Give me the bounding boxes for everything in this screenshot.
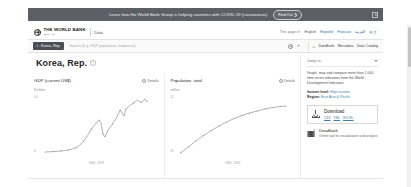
- site-header: THE WORLD BANK IBRD · IDA Data This page…: [28, 25, 383, 40]
- gdp-series-line: [45, 99, 147, 152]
- chart-header-population: Population, total i Details: [171, 78, 296, 83]
- meta-region-key: Region:: [307, 95, 320, 99]
- chart-unit-gdp: $ trillion: [34, 88, 159, 92]
- chart-unit-population: million: [171, 88, 296, 92]
- covid-banner: Learn how the World Bank Group is helpin…: [28, 8, 383, 21]
- x-label-gdp: 1960 - 2019: [89, 161, 104, 165]
- search-input[interactable]: Search (e.g. GDP population, Indonesia): [69, 44, 135, 48]
- databank-content: DataBank Online tool for visualization a…: [319, 128, 378, 139]
- site-section-label[interactable]: Data: [94, 30, 103, 35]
- y-tick-top-population: 52: [171, 95, 174, 99]
- download-tray: [312, 116, 319, 119]
- content-bottom-divider: [28, 178, 383, 179]
- download-box[interactable]: Download CSV XML EXCEL: [307, 105, 378, 125]
- gdp-series-points: [45, 101, 147, 153]
- databank-subtitle: Online tool for visualization and analys…: [319, 134, 378, 139]
- gdp-line-svg: [34, 93, 159, 165]
- databank-title: DataBank: [319, 128, 378, 133]
- chip-close-icon[interactable]: ✕: [36, 44, 39, 48]
- indicator-charts: GDP (current US$) i Details $ trillion 1…: [28, 74, 300, 178]
- details-label: Details: [284, 79, 295, 83]
- left-gutter: [0, 0, 28, 187]
- population-series-line: [180, 106, 285, 153]
- jump-to-dropdown[interactable]: Jump to: [307, 59, 378, 67]
- download-xml[interactable]: XML: [334, 116, 341, 120]
- chart-card-population: Population, total i Details million 52 2…: [164, 74, 301, 178]
- population-line-svg: [171, 93, 296, 165]
- nav-microdata[interactable]: Microdata: [338, 44, 354, 48]
- language-arabic[interactable]: العربية: [355, 30, 365, 34]
- close-icon[interactable]: ✕: [372, 12, 378, 18]
- world-bank-data-page: Learn how the World Bank Group is helpin…: [0, 0, 411, 187]
- home-icon[interactable]: ⌂: [313, 44, 315, 49]
- plus-icon[interactable]: +: [297, 43, 300, 49]
- country-chip-korea[interactable]: ✕ Korea, Rep.: [33, 42, 64, 50]
- star-icon: ✦: [313, 128, 316, 132]
- nav-databank[interactable]: DataBank: [318, 44, 334, 48]
- top-nav: ⌂ DataBank Microdata Data Catalog: [313, 44, 378, 49]
- meta-region-value[interactable]: East Asia & Pacific: [321, 95, 350, 99]
- jump-to-label: Jump to: [307, 59, 321, 63]
- download-icon: [312, 110, 320, 119]
- chevron-down-icon: [374, 60, 378, 62]
- download-title: Download: [324, 109, 354, 114]
- language-label: This page in:: [280, 30, 301, 34]
- nav-data-catalog[interactable]: Data Catalog: [357, 44, 378, 48]
- logo-title: THE WORLD BANK: [44, 28, 86, 32]
- scrollbar-thumb[interactable]: [408, 27, 411, 67]
- language-english[interactable]: English: [304, 30, 316, 34]
- logo-text: THE WORLD BANK IBRD · IDA: [44, 28, 86, 35]
- details-icon: i: [279, 79, 283, 83]
- sidebar-description: Graph, map and compare more than 1,000 t…: [307, 71, 378, 86]
- y-tick-top-gdp: 1.6: [34, 95, 38, 99]
- download-formats: CSV XML EXCEL: [324, 116, 354, 120]
- databank-box[interactable]: ✦ DataBank Online tool for visualization…: [307, 128, 378, 139]
- world-bank-logo[interactable]: THE WORLD BANK IBRD · IDA: [34, 28, 86, 35]
- globe-icon: [34, 29, 41, 36]
- country-sidebar: Jump to Graph, map and compare more than…: [300, 55, 383, 178]
- logo-divider: [90, 28, 91, 36]
- chart-header-gdp: GDP (current US$) i Details: [34, 78, 159, 83]
- info-icon[interactable]: i: [90, 60, 96, 66]
- language-selector: This page in: English Español Français ا…: [280, 30, 377, 35]
- meta-income-key: Income level:: [307, 90, 329, 94]
- y-tick-bottom-population: 25: [171, 149, 174, 153]
- meta-income-value[interactable]: High income: [330, 90, 349, 94]
- plot-population: 52 25 1960 - 2019: [171, 93, 296, 165]
- download-content: Download CSV XML EXCEL: [324, 109, 354, 120]
- search-tools: +: [288, 43, 304, 49]
- chart-card-gdp: GDP (current US$) i Details $ trillion 1…: [28, 74, 164, 178]
- country-metadata: Income level: High income Region: East A…: [307, 90, 378, 101]
- chart-title-gdp: GDP (current US$): [34, 78, 71, 83]
- plot-gdp: 1.6 0 1960 - 2019: [34, 93, 159, 165]
- language-espanol[interactable]: Español: [320, 30, 333, 34]
- y-tick-bottom-gdp: 0: [34, 149, 36, 153]
- language-francais[interactable]: Français: [337, 30, 351, 34]
- database-icon: ✦: [307, 129, 315, 137]
- logo-subtitle: IBRD · IDA: [44, 33, 86, 35]
- details-label: Details: [148, 79, 159, 83]
- meta-region: Region: East Asia & Pacific: [307, 95, 378, 100]
- language-chinese[interactable]: 中文: [369, 30, 377, 35]
- download-csv[interactable]: CSV: [324, 116, 331, 120]
- download-excel[interactable]: EXCEL: [343, 116, 353, 120]
- details-link-population[interactable]: i Details: [279, 79, 296, 83]
- x-label-population: 1960 - 2019: [225, 161, 240, 165]
- covid-find-out-button[interactable]: Find Out ❯: [273, 10, 302, 20]
- chart-title-population: Population, total: [171, 78, 203, 83]
- chip-label: Korea, Rep.: [41, 44, 61, 48]
- page-title: Korea, Rep.: [36, 58, 87, 68]
- gear-icon[interactable]: [288, 44, 293, 49]
- search-row: ✕ Korea, Rep. Search (e.g. GDP populatio…: [28, 40, 383, 53]
- nav-divider: [308, 42, 309, 51]
- covid-banner-text: Learn how the World Bank Group is helpin…: [109, 12, 268, 17]
- population-series-points: [180, 106, 286, 154]
- details-link-gdp[interactable]: i Details: [142, 79, 159, 83]
- details-icon: i: [142, 79, 146, 83]
